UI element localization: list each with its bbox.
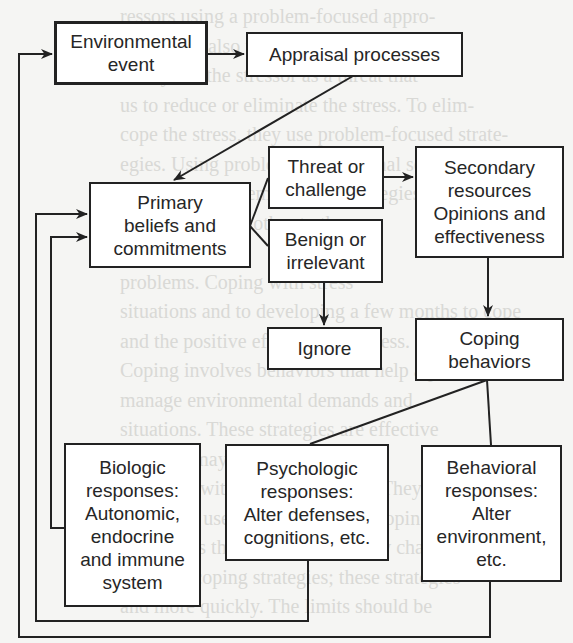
node-label: Appraisal processes bbox=[269, 43, 440, 66]
node-label: Environmental event bbox=[70, 30, 191, 76]
node-environmental-event: Environmental event bbox=[54, 21, 208, 85]
node-coping-behaviors: Coping behaviors bbox=[415, 318, 564, 381]
node-behavioral-responses: Behavioral responses: Alter environment,… bbox=[421, 445, 562, 582]
node-label: Primary beliefs and commitments bbox=[114, 191, 227, 260]
node-label: Benign or irrelevant bbox=[285, 228, 366, 274]
edge-primary-to-threat bbox=[250, 178, 268, 226]
edge-coping-to-behavioral bbox=[487, 380, 491, 445]
node-label: Behavioral responses: Alter environment,… bbox=[437, 456, 547, 571]
node-secondary-resources: Secondary resources Opinions and effecti… bbox=[415, 146, 564, 258]
node-threat-or-challenge: Threat or challenge bbox=[268, 146, 384, 209]
edge-coping-to-psychologic bbox=[310, 380, 487, 444]
node-label: Ignore bbox=[298, 337, 352, 360]
node-biologic-responses: Biologic responses: Autonomic, endocrine… bbox=[64, 443, 201, 607]
node-psychologic-responses: Psychologic responses: Alter defenses, c… bbox=[225, 444, 389, 561]
node-label: Psychologic responses: Alter defenses, c… bbox=[244, 457, 371, 549]
edge-primary-to-benign bbox=[250, 226, 268, 246]
node-primary-beliefs: Primary beliefs and commitments bbox=[89, 182, 251, 268]
node-label: Secondary resources Opinions and effecti… bbox=[434, 156, 546, 248]
node-label: Biologic responses: Autonomic, endocrine… bbox=[80, 456, 185, 594]
node-appraisal-processes: Appraisal processes bbox=[246, 32, 463, 77]
diagram-canvas: ressors using a problem-focused appro- e… bbox=[0, 0, 573, 643]
node-label: Coping behaviors bbox=[448, 327, 530, 373]
node-benign-or-irrelevant: Benign or irrelevant bbox=[268, 219, 383, 283]
node-label: Threat or challenge bbox=[285, 155, 366, 201]
node-ignore: Ignore bbox=[267, 327, 382, 370]
